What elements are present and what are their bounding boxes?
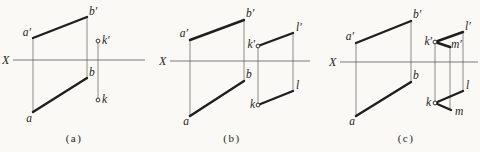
point-label: m bbox=[455, 105, 463, 117]
point-label: a′ bbox=[180, 27, 189, 39]
point-marker bbox=[433, 40, 437, 44]
point-label: l′ bbox=[296, 21, 302, 33]
edge-line bbox=[435, 91, 463, 103]
figure-caption: (a) bbox=[66, 132, 83, 145]
point-label: l′ bbox=[465, 20, 471, 32]
edge-line bbox=[190, 20, 244, 40]
figure-a: Xa′b′bak′k(a) bbox=[1, 5, 145, 145]
point-label: b bbox=[246, 68, 252, 80]
point-label: k′ bbox=[102, 34, 110, 46]
point-marker bbox=[256, 44, 260, 48]
point-marker bbox=[96, 98, 100, 102]
edge-line bbox=[356, 82, 411, 116]
figure-caption: (c) bbox=[398, 132, 415, 145]
point-label: b′ bbox=[89, 5, 98, 17]
point-label: k bbox=[250, 98, 256, 110]
point-marker bbox=[96, 39, 100, 43]
point-label: l bbox=[466, 79, 469, 91]
point-label: b bbox=[89, 66, 95, 78]
edge-line bbox=[258, 91, 293, 105]
point-label: b′ bbox=[413, 8, 422, 20]
point-label: b bbox=[413, 69, 419, 81]
point-label: a bbox=[183, 115, 189, 127]
figure-caption: (b) bbox=[223, 132, 240, 145]
point-marker bbox=[256, 103, 260, 107]
point-label: l bbox=[296, 79, 299, 91]
point-label: k bbox=[102, 93, 108, 105]
edge-line bbox=[356, 21, 411, 43]
scanned-diagram-page: Xa′b′bak′k(a)Xa′b′bak′l′kl(b)Xa′b′bak′l′… bbox=[0, 0, 480, 152]
descriptive-geometry-diagram: Xa′b′bak′k(a)Xa′b′bak′l′kl(b)Xa′b′bak′l′… bbox=[0, 0, 480, 152]
point-label: k bbox=[426, 96, 432, 108]
x-axis-label: X bbox=[158, 54, 167, 68]
point-label: a′ bbox=[23, 26, 32, 38]
edge-line bbox=[258, 33, 293, 46]
edge-line bbox=[190, 81, 244, 116]
edge-line bbox=[33, 78, 87, 112]
edge-line bbox=[435, 42, 450, 47]
point-label: a bbox=[349, 115, 355, 127]
point-marker bbox=[433, 101, 437, 105]
figure-b: Xa′b′bak′l′kl(b) bbox=[158, 7, 310, 145]
x-axis-label: X bbox=[328, 55, 337, 69]
edge-line bbox=[33, 17, 87, 38]
figure-c: Xa′b′bak′l′m′klm(c) bbox=[328, 8, 478, 145]
x-axis-label: X bbox=[1, 53, 10, 67]
point-label: a bbox=[26, 112, 32, 124]
point-label: m′ bbox=[451, 38, 462, 50]
point-label: a′ bbox=[346, 30, 355, 42]
point-label: k′ bbox=[247, 38, 255, 50]
point-label: k′ bbox=[424, 35, 432, 47]
point-label: b′ bbox=[246, 7, 255, 19]
edge-line bbox=[435, 103, 451, 110]
